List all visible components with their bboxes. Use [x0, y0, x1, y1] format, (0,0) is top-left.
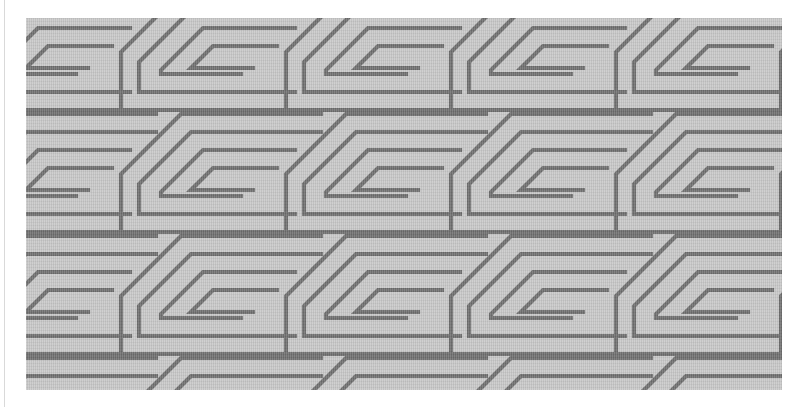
image-canvas [0, 0, 798, 407]
textile-pattern-plate [26, 18, 782, 390]
pattern-fill [26, 18, 782, 390]
greek-key-meander-svg [26, 18, 782, 390]
left-margin-rule [4, 0, 5, 407]
